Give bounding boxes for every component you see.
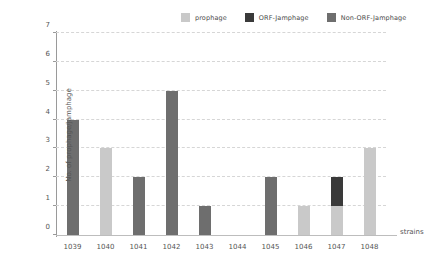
bar-stack[interactable] <box>331 177 343 235</box>
bar-stack[interactable] <box>265 177 277 235</box>
x-tick-label: 1047 <box>320 243 353 251</box>
legend-item[interactable]: Non-ORF-Jamphage <box>327 13 407 22</box>
y-tick-label: 6 <box>46 50 50 58</box>
legend-item[interactable]: prophage <box>181 13 227 22</box>
y-tick-label: 3 <box>46 136 50 144</box>
bar-segment[interactable] <box>133 177 145 235</box>
bar-slot <box>254 33 287 235</box>
bar-stack[interactable] <box>100 148 112 235</box>
y-tick-label: 7 <box>46 21 50 29</box>
bar-slot <box>287 33 320 235</box>
chart-container: prophageORF-JamphageNon-ORF-Jamphage 012… <box>0 0 431 270</box>
x-tick-label: 1045 <box>254 243 287 251</box>
bar-slot <box>221 33 254 235</box>
bar-segment[interactable] <box>100 148 112 235</box>
y-tick-label: 4 <box>46 108 50 116</box>
bar-slot <box>353 33 386 235</box>
y-tick-label: 1 <box>46 194 50 202</box>
bar-stack[interactable] <box>133 177 145 235</box>
bar-slot <box>188 33 221 235</box>
bar-slot <box>155 33 188 235</box>
bar-stack[interactable] <box>166 91 178 235</box>
x-tick-label: 1046 <box>287 243 320 251</box>
legend-swatch-icon <box>327 13 336 22</box>
legend-item[interactable]: ORF-Jamphage <box>245 13 309 22</box>
y-tick-label: 0 <box>46 223 50 231</box>
bar-slot <box>320 33 353 235</box>
bar-segment[interactable] <box>298 206 310 235</box>
x-tick-label: 1042 <box>155 243 188 251</box>
x-tick-label: 1044 <box>221 243 254 251</box>
y-tick-label: 5 <box>46 79 50 87</box>
x-axis-line <box>56 235 397 236</box>
plot-area: 01234567 <box>56 33 386 235</box>
bar-group <box>56 33 386 235</box>
x-tick-label: 1039 <box>56 243 89 251</box>
bar-segment[interactable] <box>265 177 277 235</box>
x-tick-label: 1040 <box>89 243 122 251</box>
x-tick-label: 1043 <box>188 243 221 251</box>
x-tick-label: 1041 <box>122 243 155 251</box>
legend-label: Non-ORF-Jamphage <box>341 14 407 22</box>
y-tick-label: 2 <box>46 165 50 173</box>
legend-label: ORF-Jamphage <box>259 14 309 22</box>
bar-segment[interactable] <box>331 177 343 206</box>
legend-swatch-icon <box>181 13 190 22</box>
bar-slot <box>89 33 122 235</box>
bar-stack[interactable] <box>364 148 376 235</box>
x-axis-title: strains <box>400 228 424 236</box>
bar-segment[interactable] <box>364 148 376 235</box>
bar-slot <box>122 33 155 235</box>
y-axis-title: No. of prophage/Jamphage <box>65 88 73 182</box>
bar-stack[interactable] <box>199 206 211 235</box>
legend-swatch-icon <box>245 13 254 22</box>
bar-stack[interactable] <box>298 206 310 235</box>
legend-label: prophage <box>195 14 227 22</box>
bar-segment[interactable] <box>166 91 178 235</box>
x-tick-label: 1048 <box>353 243 386 251</box>
bar-segment[interactable] <box>199 206 211 235</box>
bar-segment[interactable] <box>331 206 343 235</box>
chart-legend: prophageORF-JamphageNon-ORF-Jamphage <box>181 13 406 22</box>
